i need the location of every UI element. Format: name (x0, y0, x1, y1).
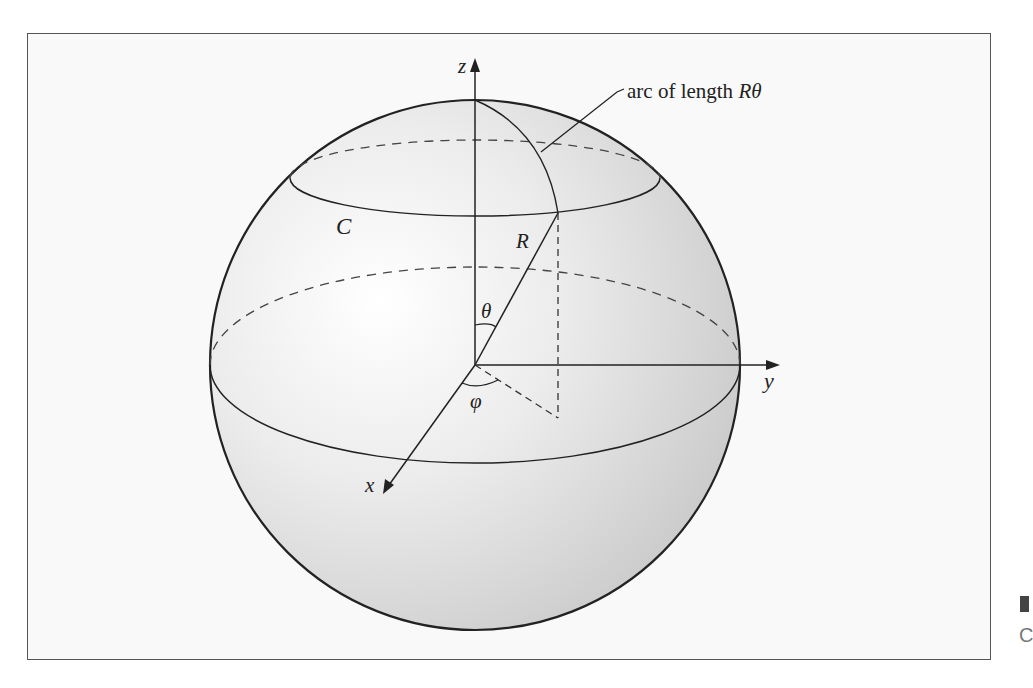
theta-label: θ (481, 299, 491, 323)
phi-label: φ (470, 389, 482, 413)
x-axis-label: x (364, 473, 375, 497)
y-axis-label: y (762, 368, 774, 393)
z-axis-label: z (457, 54, 466, 78)
arc-annotation-text: arc of length (627, 79, 738, 103)
circle-c-label: C (336, 214, 352, 239)
clipped-edge-block (1020, 596, 1029, 612)
clipped-edge-glyph: C (1019, 624, 1033, 647)
arc-annotation-math: Rθ (737, 79, 761, 103)
arc-annotation: arc of length Rθ (627, 79, 762, 103)
radius-label: R (515, 229, 529, 253)
z-axis-arrow-icon (470, 58, 480, 72)
